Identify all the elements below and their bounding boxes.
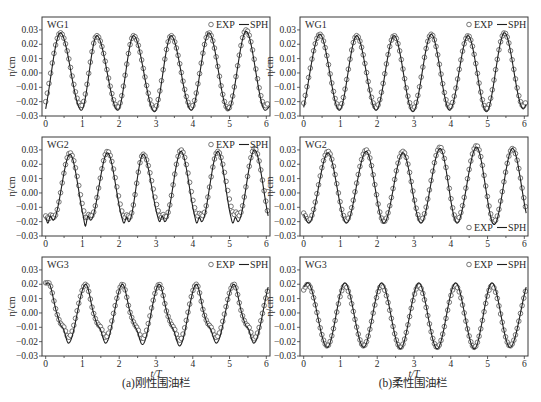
panel-title: WG2	[305, 139, 327, 150]
y-tick-label: −0.03	[16, 351, 38, 361]
y-tick-label: 0.01	[279, 174, 296, 184]
legend-exp-marker-icon	[209, 262, 214, 267]
y-axis-label: η/cm	[6, 296, 17, 316]
y-tick-label: −0.01	[274, 322, 296, 332]
y-axis-label: η/cm	[264, 176, 275, 196]
y-tick-label: −0.02	[274, 97, 296, 107]
x-tick-label: 5	[227, 119, 232, 129]
y-axis-label: η/cm	[6, 56, 17, 76]
x-tick-label: 4	[190, 359, 195, 369]
x-tick-label: 6	[264, 119, 269, 129]
x-tick-label: 6	[264, 359, 269, 369]
panel-wg3-rigid: 0.030.020.010.00−0.01−0.02−0.030123456η/…	[6, 257, 270, 379]
x-tick-label: 2	[117, 239, 122, 249]
x-tick-label: 0	[301, 239, 306, 249]
x-tick-label: 2	[375, 359, 380, 369]
x-axis-label: t/T	[150, 368, 163, 379]
y-tick-label: −0.01	[16, 322, 38, 332]
y-tick-label: 0.03	[279, 145, 296, 155]
x-tick-label: 1	[338, 359, 343, 369]
y-tick-label: −0.02	[16, 337, 38, 347]
plot-frame	[42, 137, 270, 236]
y-tick-label: 0.00	[279, 68, 296, 78]
figure: (a)刚性围油栏 (b)柔性围油栏 0.030.020.010.00−0.01−…	[0, 0, 541, 402]
legend-exp-label: EXP	[216, 139, 235, 150]
y-tick-label: −0.01	[274, 202, 296, 212]
legend-exp-label: EXP	[474, 222, 493, 233]
legend-exp-label: EXP	[216, 19, 235, 30]
y-tick-label: 0.01	[21, 174, 38, 184]
y-tick-label: 0.02	[21, 39, 38, 49]
x-tick-label: 5	[227, 359, 232, 369]
x-tick-label: 2	[117, 359, 122, 369]
legend-exp-marker-icon	[467, 22, 472, 27]
x-tick-label: 4	[448, 359, 453, 369]
y-tick-label: 0.03	[21, 265, 38, 275]
exp-marker	[265, 102, 270, 107]
y-tick-label: 0.01	[21, 294, 38, 304]
legend-sph-label: SPH	[508, 259, 526, 270]
x-tick-label: 4	[190, 119, 195, 129]
x-tick-label: 1	[338, 119, 343, 129]
x-tick-label: 6	[522, 359, 527, 369]
y-tick-label: −0.03	[274, 231, 296, 241]
panel-title: WG1	[47, 19, 69, 30]
legend-exp-label: EXP	[474, 19, 493, 30]
y-axis-label: η/cm	[264, 296, 275, 316]
legend: EXPSPH	[209, 259, 269, 270]
y-tick-label: −0.02	[274, 337, 296, 347]
y-tick-label: 0.02	[21, 279, 38, 289]
legend-exp-label: EXP	[474, 259, 493, 270]
legend-sph-label: SPH	[508, 222, 526, 233]
y-tick-label: 0.02	[21, 159, 38, 169]
y-tick-label: 0.00	[21, 68, 38, 78]
x-tick-label: 4	[448, 239, 453, 249]
y-axis-label: η/cm	[6, 176, 17, 196]
y-tick-label: −0.03	[16, 231, 38, 241]
exp-marker	[523, 101, 528, 106]
legend-exp-marker-icon	[467, 262, 472, 267]
legend: EXPSPH	[209, 139, 269, 150]
y-tick-label: 0.00	[21, 188, 38, 198]
x-tick-label: 0	[43, 119, 48, 129]
y-tick-label: 0.01	[279, 294, 296, 304]
legend-exp-label: EXP	[216, 259, 235, 270]
y-tick-label: −0.01	[16, 202, 38, 212]
y-tick-label: 0.02	[279, 279, 296, 289]
x-tick-label: 5	[485, 239, 490, 249]
y-tick-label: −0.03	[274, 351, 296, 361]
legend: EXPSPH	[467, 19, 527, 30]
x-tick-label: 0	[43, 359, 48, 369]
x-axis-label: t/T	[408, 368, 421, 379]
legend-sph-label: SPH	[508, 19, 526, 30]
legend-sph-label: SPH	[250, 259, 268, 270]
legend: EXPSPH	[209, 19, 269, 30]
y-tick-label: 0.03	[21, 145, 38, 155]
y-tick-label: 0.02	[279, 159, 296, 169]
y-tick-label: 0.00	[21, 308, 38, 318]
x-tick-label: 2	[117, 119, 122, 129]
y-tick-label: −0.02	[16, 97, 38, 107]
x-tick-label: 0	[301, 359, 306, 369]
legend-exp-marker-icon	[209, 142, 214, 147]
y-tick-label: 0.03	[279, 25, 296, 35]
x-tick-label: 0	[43, 239, 48, 249]
x-tick-label: 0	[301, 119, 306, 129]
y-tick-label: 0.03	[21, 25, 38, 35]
y-tick-label: 0.00	[279, 188, 296, 198]
y-tick-label: −0.02	[16, 217, 38, 227]
legend-exp-marker-icon	[467, 225, 472, 230]
x-tick-label: 3	[412, 239, 417, 249]
x-tick-label: 4	[448, 119, 453, 129]
x-tick-label: 2	[375, 119, 380, 129]
x-tick-label: 4	[190, 239, 195, 249]
panel-title: WG3	[47, 259, 69, 270]
legend-sph-label: SPH	[250, 139, 268, 150]
x-tick-label: 6	[264, 239, 269, 249]
y-tick-label: 0.00	[279, 308, 296, 318]
legend-sph-label: SPH	[250, 19, 268, 30]
panel-wg2-flexible: 0.030.020.010.00−0.01−0.02−0.030123456η/…	[264, 137, 528, 249]
y-tick-label: 0.01	[279, 54, 296, 64]
plot-frame	[300, 257, 528, 356]
y-tick-label: −0.03	[274, 111, 296, 121]
